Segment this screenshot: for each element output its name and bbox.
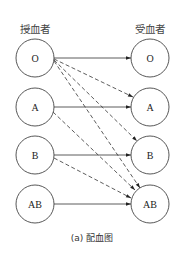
donor-column: O A B AB xyxy=(16,39,54,223)
donor-node-label: O xyxy=(31,53,38,64)
recipient-node-ab: AB xyxy=(131,185,169,223)
donor-node-label: A xyxy=(31,102,39,113)
edge-a-to-ab xyxy=(53,112,135,190)
edges xyxy=(53,58,140,204)
donor-node-o: O xyxy=(16,39,54,77)
donor-node-label: AB xyxy=(28,199,42,210)
recipient-node-label: A xyxy=(146,102,154,113)
donor-header: 授血者 xyxy=(20,23,50,35)
recipient-node-label: B xyxy=(147,150,154,161)
edge-o-to-b xyxy=(54,60,137,141)
donor-node-a: A xyxy=(16,88,54,126)
recipient-node-label: O xyxy=(146,53,153,64)
donor-node-b: B xyxy=(16,136,54,174)
recipient-column: O A B AB xyxy=(131,39,169,223)
donor-node-label: B xyxy=(32,150,39,161)
recipient-node-b: B xyxy=(131,136,169,174)
edge-b-to-ab xyxy=(54,158,131,198)
recipient-node-o: O xyxy=(131,39,169,77)
donor-node-ab: AB xyxy=(16,185,54,223)
figure-caption: (a) 配血图 xyxy=(71,232,113,243)
blood-matching-diagram: 授血者 受血者 O A B AB xyxy=(0,0,185,256)
recipient-header: 受血者 xyxy=(135,23,165,35)
recipient-node-label: AB xyxy=(143,199,157,210)
recipient-node-a: A xyxy=(131,88,169,126)
